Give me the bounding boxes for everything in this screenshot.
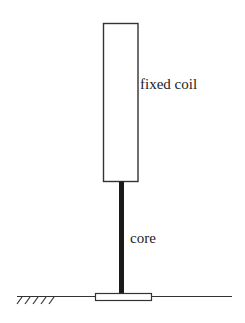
fixed-coil: [104, 24, 139, 182]
base-plate: [96, 294, 152, 301]
core-rod: [119, 182, 124, 294]
fixed-coil-label: fixed coil: [140, 76, 197, 92]
coil-core-diagram: fixed coil core: [0, 0, 245, 323]
core-label: core: [130, 230, 156, 246]
ground-hatch-icon: [17, 297, 54, 304]
